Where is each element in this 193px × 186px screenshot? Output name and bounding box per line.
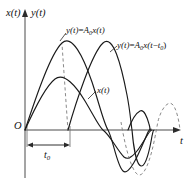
vertical-axis-arrowhead — [22, 9, 28, 17]
curve-label-delayed-open: x(t — [143, 40, 153, 50]
delay-arrow-left — [27, 143, 33, 148]
delay-dimension-subscript: 0 — [47, 154, 50, 161]
curve-label-delayed-close: ) — [163, 40, 166, 50]
curve-label-scaled-tail: x(t) — [92, 25, 105, 35]
curve-label-scaled-output: y(t)=A0x(t) — [66, 26, 105, 35]
curve-label-delayed-delay-sub: 0 — [160, 45, 163, 51]
delay-dimension-label: t0 — [44, 150, 50, 160]
curve-label-input-signal: x(t) — [97, 86, 110, 95]
horizontal-axis-arrowhead — [173, 127, 181, 133]
curve-input-signal — [25, 77, 152, 158]
leader-input-signal — [88, 91, 96, 99]
curve-label-delayed-main: y(t) — [117, 40, 130, 50]
axis-label-y-of-t: y(t) — [31, 8, 46, 19]
curve-label-delayed-gain-sub: 0 — [140, 45, 143, 51]
curve-label-scaled-main: y(t) — [66, 25, 79, 35]
curve-label-scaled-gain-sub: 0 — [89, 30, 92, 36]
delay-arrow-right — [64, 143, 70, 148]
signal-waveform-figure: x(t) y(t) O t y(t)=A0x(t) y(t)=A0x(t−t0)… — [0, 0, 193, 186]
curve-label-delayed-output: y(t)=A0x(t−t0) — [117, 41, 166, 50]
origin-label: O — [14, 121, 22, 132]
axis-label-t: t — [180, 136, 183, 147]
axis-label-x-of-t: x(t) — [6, 8, 21, 19]
dashed-construction-line — [62, 44, 68, 131]
